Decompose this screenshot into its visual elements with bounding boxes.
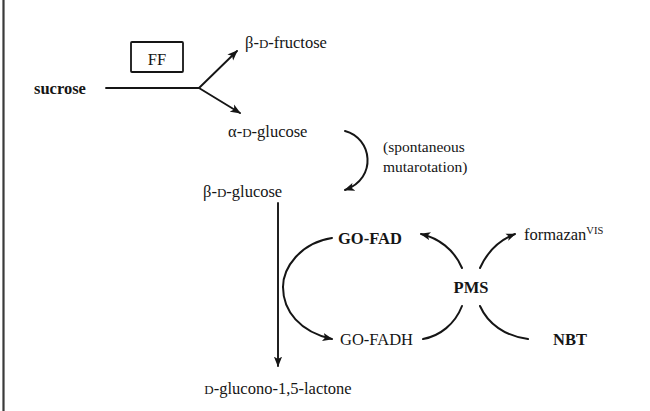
annotation-mutarotation-line1: (spontaneous <box>383 138 465 156</box>
curve-pms-to-go-fad <box>421 234 462 268</box>
formazan-name: formazan <box>524 225 586 244</box>
label-beta-d-fructose: β-D-fructose <box>245 33 327 52</box>
label-go-fad: GO-FAD <box>338 229 402 248</box>
annotation-mutarotation-line2: mutarotation) <box>383 158 467 176</box>
curve-go-fadh-to-pms <box>423 306 462 339</box>
label-alpha-d-glucose: α-D-glucose <box>228 122 307 141</box>
curve-pms-to-formazan <box>480 234 515 268</box>
label-pms: PMS <box>454 278 489 297</box>
mutarotation-curve-arrow <box>345 131 368 190</box>
label-formazan: formazanVIS <box>524 225 603 244</box>
curve-to-go-fadh <box>283 287 332 339</box>
lactone-name: -glucono-1,5-lactone <box>214 379 352 398</box>
lactone-config-d: D <box>204 382 213 397</box>
beta-glucose-config-d: D <box>217 185 226 200</box>
alpha-glucose-config-d: D <box>242 125 251 140</box>
label-beta-d-glucose: β-D-glucose <box>203 182 282 201</box>
svg-text:β-D-fructose: β-D-fructose <box>245 33 327 52</box>
label-nbt: NBT <box>553 330 587 349</box>
beta-glucose-greek-beta: β <box>203 182 211 201</box>
fructose-config-d: D <box>259 36 268 51</box>
pathway-diagram-canvas: sucrose FF β-D-fructose α-D-glucose β-D-… <box>0 0 650 411</box>
label-go-fadh: GO-FADH <box>340 330 413 349</box>
formazan-superscript-vis: VIS <box>586 225 603 236</box>
curve-nbt-to-pms <box>480 306 528 339</box>
fructose-name: -fructose <box>268 33 327 52</box>
svg-text:D-glucono-1,5-lactone: D-glucono-1,5-lactone <box>204 379 351 398</box>
fructose-greek-beta: β <box>245 33 253 52</box>
svg-text:formazanVIS: formazanVIS <box>524 225 603 244</box>
svg-text:β-D-glucose: β-D-glucose <box>203 182 282 201</box>
beta-glucose-name: -glucose <box>226 182 282 201</box>
alpha-glucose-greek-alpha: α <box>228 122 237 141</box>
label-d-glucono-lactone: D-glucono-1,5-lactone <box>204 379 351 398</box>
svg-text:α-D-glucose: α-D-glucose <box>228 122 307 141</box>
pathway-figure: sucrose FF β-D-fructose α-D-glucose β-D-… <box>0 0 650 411</box>
alpha-glucose-name: -glucose <box>252 122 308 141</box>
curve-to-go-fad <box>283 238 332 287</box>
arrow-to-fructose <box>199 51 237 88</box>
label-sucrose: sucrose <box>34 79 86 98</box>
arrow-to-alpha-glucose <box>199 88 240 113</box>
label-enzyme-ff: FF <box>148 50 166 69</box>
